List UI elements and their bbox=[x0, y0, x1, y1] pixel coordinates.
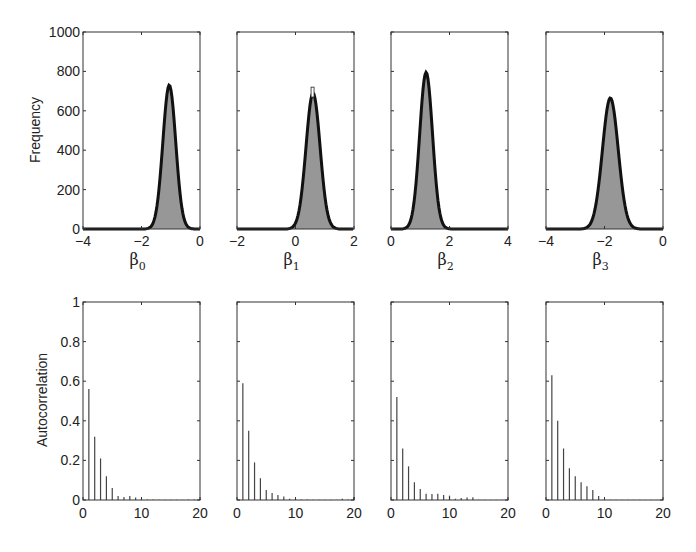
y-tick-label: 0.6 bbox=[61, 373, 81, 389]
y-tick-label: 200 bbox=[57, 182, 81, 198]
x-tick-label: 0 bbox=[387, 505, 395, 521]
x-tick-label: 0 bbox=[387, 233, 395, 249]
y-tick-label: 800 bbox=[57, 63, 81, 79]
x-tick-label: 0 bbox=[659, 233, 667, 249]
histogram-fill bbox=[391, 72, 508, 229]
x-axis-label: β2 bbox=[437, 250, 453, 273]
x-tick-label: 10 bbox=[134, 505, 150, 521]
y-tick-label: 400 bbox=[57, 142, 81, 158]
x-tick-label: 20 bbox=[655, 505, 671, 521]
x-tick-label: 10 bbox=[442, 505, 458, 521]
density-curve bbox=[237, 93, 353, 229]
density-curve bbox=[391, 72, 508, 229]
x-tick-label: 0 bbox=[542, 505, 550, 521]
x-axis-label: β3 bbox=[592, 250, 608, 273]
autocorrelation-panel-2: 01020 bbox=[387, 302, 516, 521]
max-bar bbox=[311, 87, 314, 97]
x-tick-label: −4 bbox=[538, 233, 554, 249]
histogram-panel-2: 024β2 bbox=[387, 32, 512, 273]
axes-frame bbox=[83, 32, 200, 229]
x-axis-label: β1 bbox=[283, 250, 299, 273]
x-tick-label: 10 bbox=[288, 505, 304, 521]
y-axis-label-frequency: Frequency bbox=[27, 97, 43, 163]
x-tick-label: 0 bbox=[233, 505, 241, 521]
histogram-panel-1: −202β1 bbox=[229, 32, 358, 273]
autocorrelation-panel-0: 00.20.40.60.8101020 bbox=[61, 294, 208, 521]
x-tick-label: 0 bbox=[196, 233, 204, 249]
y-tick-label: 1 bbox=[72, 294, 80, 310]
y-axis-label-autocorrelation: Autocorrelation bbox=[34, 353, 50, 447]
histogram-fill bbox=[237, 93, 354, 229]
x-tick-label: −4 bbox=[75, 233, 91, 249]
x-tick-label: 2 bbox=[446, 233, 454, 249]
histogram-panel-3: −4−20β3 bbox=[538, 32, 667, 273]
x-tick-label: −2 bbox=[134, 233, 150, 249]
x-axis-label: β0 bbox=[129, 250, 145, 273]
y-tick-label: 0.4 bbox=[61, 413, 81, 429]
axes-frame bbox=[391, 32, 508, 229]
density-curve bbox=[83, 85, 200, 229]
x-tick-label: 20 bbox=[192, 505, 208, 521]
x-tick-label: −2 bbox=[597, 233, 613, 249]
x-tick-label: −2 bbox=[229, 233, 245, 249]
x-tick-label: 4 bbox=[504, 233, 512, 249]
histogram-panel-0: 02004006008001000−4−20β0 bbox=[49, 24, 204, 273]
x-tick-label: 20 bbox=[500, 505, 516, 521]
x-tick-label: 20 bbox=[346, 505, 362, 521]
x-tick-label: 0 bbox=[79, 505, 87, 521]
autocorrelation-panel-1: 01020 bbox=[233, 302, 362, 521]
x-tick-label: 10 bbox=[597, 505, 613, 521]
figure: 02004006008001000−4−20β0−202β1024β2−4−20… bbox=[0, 0, 696, 552]
autocorrelation-panel-3: 01020 bbox=[542, 302, 671, 521]
y-tick-label: 0.2 bbox=[61, 452, 81, 468]
y-tick-label: 600 bbox=[57, 103, 81, 119]
x-tick-label: 2 bbox=[350, 233, 358, 249]
y-tick-label: 1000 bbox=[49, 24, 80, 40]
y-tick-label: 0.8 bbox=[61, 334, 81, 350]
x-tick-label: 0 bbox=[292, 233, 300, 249]
axes-frame bbox=[237, 32, 354, 229]
